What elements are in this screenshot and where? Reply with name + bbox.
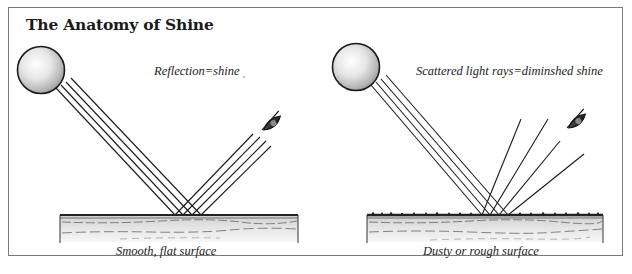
left-panel bbox=[18, 47, 299, 244]
incoming-rays bbox=[371, 75, 508, 215]
eye-icon bbox=[260, 111, 285, 134]
smooth-surface bbox=[60, 215, 298, 243]
stray-mark bbox=[243, 76, 245, 78]
scattered-rays bbox=[482, 119, 584, 215]
light-sphere-icon bbox=[18, 47, 65, 94]
light-sphere-icon bbox=[333, 44, 380, 91]
rough-surface bbox=[367, 212, 603, 243]
eye-icon bbox=[565, 109, 590, 132]
right-panel bbox=[333, 44, 604, 244]
incoming-rays bbox=[56, 78, 201, 215]
shine-diagram bbox=[0, 0, 632, 274]
